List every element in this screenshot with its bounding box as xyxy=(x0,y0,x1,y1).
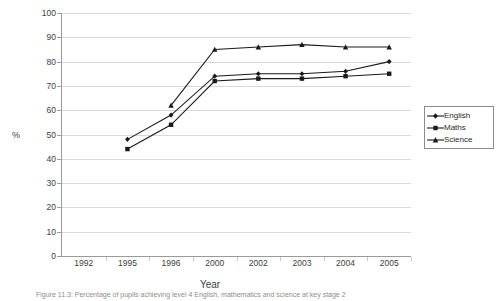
x-axis-tick-label: 2002 xyxy=(249,258,268,268)
series-science xyxy=(168,42,392,108)
x-axis-tick-label: 2003 xyxy=(292,258,311,268)
x-axis-tick-label: 1992 xyxy=(74,258,93,268)
legend-marker-triangle-icon xyxy=(427,135,444,145)
data-point-marker xyxy=(169,123,173,127)
data-point-marker xyxy=(387,72,391,76)
x-axis-tick-label: 2005 xyxy=(380,258,399,268)
legend-label-science: Science xyxy=(444,135,472,145)
x-axis-tick-label: 2004 xyxy=(336,258,355,268)
legend-label-english: English xyxy=(444,111,470,121)
data-point-marker xyxy=(256,71,261,76)
x-axis-tick-label: 1995 xyxy=(118,258,137,268)
data-point-marker xyxy=(343,69,348,74)
x-axis-tick-label: 1996 xyxy=(162,258,181,268)
legend-item-science: Science xyxy=(427,134,490,145)
x-axis-tick-label: 2000 xyxy=(205,258,224,268)
data-series-layer xyxy=(0,0,420,276)
data-point-marker xyxy=(125,137,130,142)
legend-label-maths: Maths xyxy=(444,123,466,133)
chart-legend: English Maths Science xyxy=(424,106,494,149)
series-line xyxy=(171,45,389,106)
chart-figure: % 0102030405060708090100 199219951996200… xyxy=(0,0,499,301)
data-point-marker xyxy=(300,71,305,76)
data-point-marker xyxy=(212,79,216,83)
x-axis-tick-labels: 19921995199620002002200320042005 xyxy=(62,258,411,272)
series-maths xyxy=(125,72,391,152)
data-point-marker xyxy=(256,76,260,80)
data-point-marker xyxy=(387,59,392,64)
data-point-marker xyxy=(343,74,347,78)
plot-area: % 0102030405060708090100 199219951996200… xyxy=(0,0,420,276)
series-english xyxy=(125,59,392,142)
data-point-marker xyxy=(300,76,304,80)
data-point-marker xyxy=(125,147,129,151)
legend-marker-square-icon xyxy=(427,123,444,133)
figure-caption: Figure 11.3: Percentage of pupils achiev… xyxy=(36,290,466,299)
legend-marker-diamond-icon xyxy=(427,111,444,121)
legend-item-maths: Maths xyxy=(427,122,490,133)
legend-item-english: English xyxy=(427,110,490,121)
series-line xyxy=(127,74,389,149)
x-axis-title: Year xyxy=(0,279,420,290)
